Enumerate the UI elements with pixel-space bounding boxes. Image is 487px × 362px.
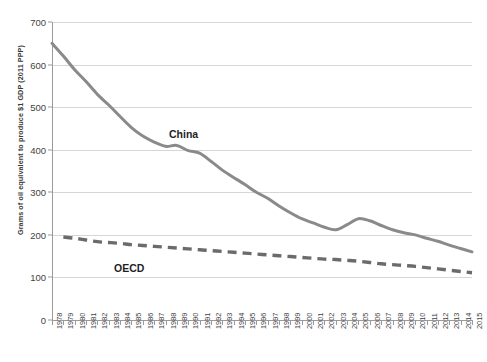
series-layer bbox=[0, 0, 487, 362]
series-annotation-oecd: OECD bbox=[114, 262, 144, 274]
energy-intensity-line-chart: Grams of oil equivalent to produce $1 GD… bbox=[0, 0, 487, 362]
series-line-china bbox=[52, 43, 472, 252]
series-annotation-china: China bbox=[169, 128, 198, 140]
